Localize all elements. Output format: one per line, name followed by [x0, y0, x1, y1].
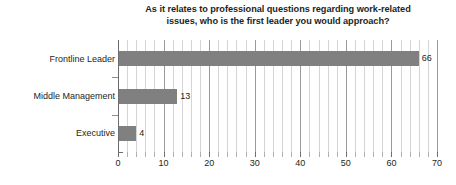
x-axis-tick	[382, 152, 383, 157]
x-axis-tick	[391, 152, 392, 157]
x-axis-tick	[200, 152, 201, 157]
x-axis-tick	[300, 152, 301, 157]
x-axis-tick	[319, 152, 320, 157]
x-axis-tick	[255, 152, 256, 157]
x-axis-tick	[282, 152, 283, 157]
x-axis-tick	[401, 152, 402, 157]
x-axis-tick	[355, 152, 356, 157]
x-axis-tick-label: 30	[240, 158, 270, 168]
x-axis-tick-label: 60	[376, 158, 406, 168]
chart-title-line-2: issues, who is the first leader you woul…	[108, 15, 448, 27]
x-axis-tick	[127, 152, 128, 157]
y-axis-line	[118, 40, 119, 157]
x-axis-tick	[191, 152, 192, 157]
plot-area: 66134	[118, 40, 437, 152]
x-axis-tick-label: 0	[103, 158, 133, 168]
x-axis-tick	[136, 152, 137, 157]
bar	[118, 51, 419, 66]
bar-value-label: 4	[139, 126, 144, 141]
x-axis-tick	[227, 152, 228, 157]
x-axis-tick	[428, 152, 429, 157]
x-axis-tick	[154, 152, 155, 157]
x-axis-tick-label: 20	[194, 158, 224, 168]
bar-chart: As it relates to professional questions …	[0, 0, 456, 185]
x-axis-tick	[173, 152, 174, 157]
x-axis-tick	[328, 152, 329, 157]
x-axis-tick	[346, 152, 347, 157]
x-axis-tick-label: 40	[285, 158, 315, 168]
x-axis-tick-label: 10	[149, 158, 179, 168]
bar-value-label: 66	[422, 51, 432, 66]
x-axis-tick	[337, 152, 338, 157]
x-axis-tick	[182, 152, 183, 157]
x-axis-tick	[410, 152, 411, 157]
x-axis-tick	[273, 152, 274, 157]
x-axis-tick	[209, 152, 210, 157]
category-label: Middle Management	[33, 90, 115, 102]
chart-title: As it relates to professional questions …	[108, 3, 448, 28]
x-axis-tick	[437, 152, 438, 157]
x-axis-tick	[364, 152, 365, 157]
category-separator-tick	[112, 77, 118, 78]
bar-value-label: 13	[180, 89, 190, 104]
x-axis-tick	[264, 152, 265, 157]
x-axis-tick	[373, 152, 374, 157]
x-axis-tick	[164, 152, 165, 157]
gridline	[437, 40, 438, 152]
x-axis-tick	[419, 152, 420, 157]
x-axis-tick	[246, 152, 247, 157]
bar	[118, 89, 177, 104]
gridline	[419, 40, 420, 152]
x-axis-tick-label: 70	[422, 158, 452, 168]
category-label: Executive	[76, 127, 115, 139]
bar	[118, 126, 136, 141]
x-axis-tick	[236, 152, 237, 157]
category-label: Frontline Leader	[49, 53, 115, 65]
x-axis-tick	[218, 152, 219, 157]
x-axis-tick	[291, 152, 292, 157]
x-axis-tick	[145, 152, 146, 157]
chart-title-line-1: As it relates to professional questions …	[108, 3, 448, 15]
x-axis-tick	[118, 152, 119, 157]
x-axis-tick-label: 50	[331, 158, 361, 168]
category-separator-tick	[112, 115, 118, 116]
x-axis-tick	[309, 152, 310, 157]
